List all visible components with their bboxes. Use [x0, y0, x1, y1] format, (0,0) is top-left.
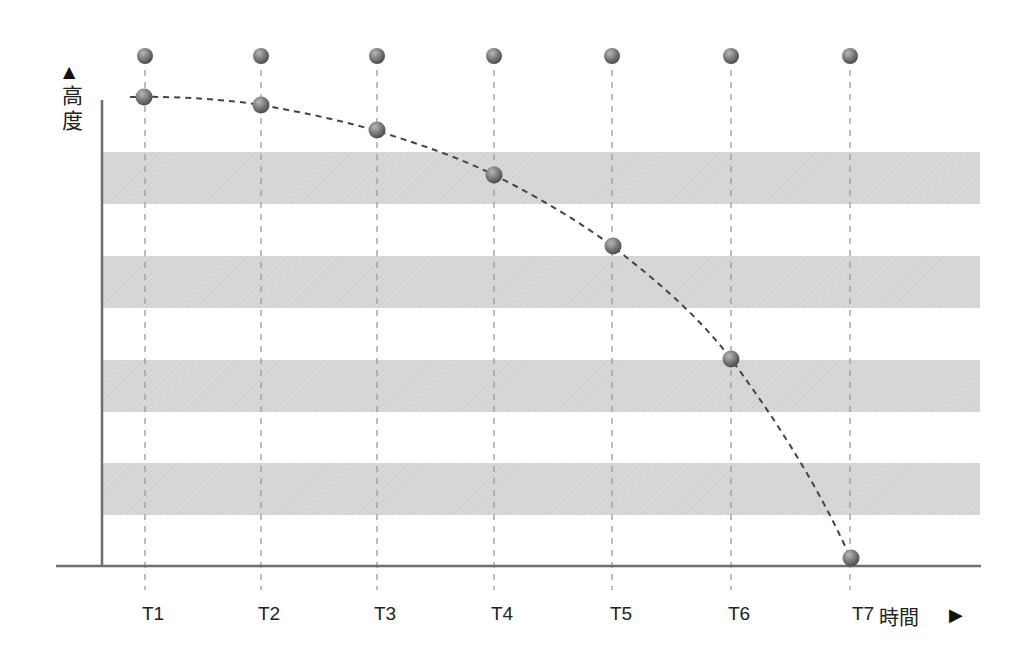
- diagram-canvas: [0, 0, 1034, 664]
- y-axis-title: 高度: [60, 84, 84, 134]
- time-label-t2: T2: [258, 603, 280, 625]
- shaded-bands: [103, 152, 980, 515]
- reference-ball-t3: [369, 48, 385, 64]
- band-4: [103, 463, 980, 515]
- band-3: [103, 360, 980, 412]
- reference-balls: [137, 48, 858, 64]
- falling-ball-t5: [605, 238, 622, 255]
- falling-ball-t4: [486, 167, 503, 184]
- x-axis-arrow-icon: ▶: [949, 604, 963, 625]
- falling-ball-t1: [136, 89, 153, 106]
- reference-ball-t5: [604, 48, 620, 64]
- time-label-t7: T7: [852, 603, 874, 625]
- time-label-t5: T5: [610, 603, 632, 625]
- time-label-t1: T1: [142, 603, 164, 625]
- band-1: [103, 152, 980, 204]
- time-label-t4: T4: [491, 603, 513, 625]
- reference-ball-t1: [137, 48, 153, 64]
- reference-ball-t7: [842, 48, 858, 64]
- falling-ball-t2: [253, 97, 270, 114]
- free-fall-diagram: ▲ 高度 T1 T2 T3 T4 T5 T6 T7 時間 ▶: [0, 0, 1034, 664]
- y-axis-arrow-icon: ▲: [63, 62, 75, 81]
- falling-ball-t3: [369, 122, 386, 139]
- reference-ball-t6: [723, 48, 739, 64]
- falling-ball-t7: [843, 550, 860, 567]
- band-2: [103, 256, 980, 308]
- reference-ball-t2: [253, 48, 269, 64]
- x-axis-title: 時間: [879, 602, 919, 631]
- falling-ball-t6: [723, 351, 740, 368]
- time-label-t3: T3: [374, 603, 396, 625]
- reference-ball-t4: [486, 48, 502, 64]
- time-label-t6: T6: [728, 603, 750, 625]
